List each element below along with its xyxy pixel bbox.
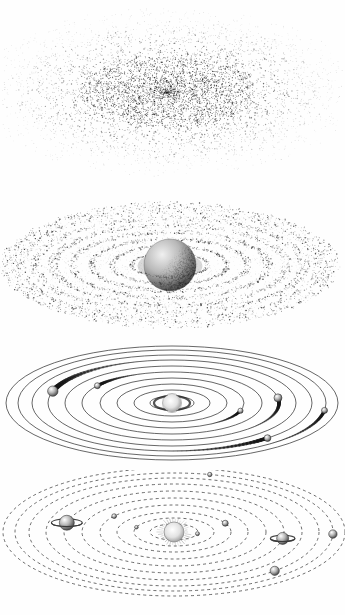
planet-body — [195, 532, 199, 536]
panel-planetesimals-stage-3: Stage 3: Solid bodies accrete and clear … — [0, 345, 345, 470]
protoplanet-lower-left — [94, 383, 100, 389]
planet-body — [112, 514, 117, 519]
planet-body — [135, 525, 139, 529]
nebula-stipple-cloud — [2, 8, 343, 176]
panel-nebula-stage-1: Stage 1: Collapsing cloud of gas and dus… — [0, 0, 345, 195]
planet-body — [270, 566, 279, 575]
proto-sun — [138, 239, 203, 292]
nebula-illustration — [0, 0, 345, 195]
planet-outer-right — [329, 530, 337, 538]
planet-body — [208, 472, 212, 476]
protoplanet-outer-right — [322, 407, 328, 413]
planet-inner-1 — [195, 532, 199, 536]
protoplanet-left-large — [48, 386, 58, 396]
protoplanet-inner-right — [238, 408, 243, 413]
planet-mid-right — [270, 532, 295, 544]
planet-inner-2 — [135, 525, 139, 529]
protoplanet-mid-right — [274, 394, 282, 402]
planet-ringed-saturn — [51, 515, 82, 530]
sun — [156, 518, 191, 547]
planet-body — [329, 530, 337, 538]
protoplanetary-disk-illustration — [0, 195, 345, 345]
planet-inner-4 — [112, 514, 117, 519]
planetesimal-accretion-illustration — [0, 345, 345, 470]
planet-inner-3 — [222, 520, 228, 526]
planet-body — [222, 520, 228, 526]
planet-body — [59, 515, 74, 530]
mature-solar-system-illustration — [0, 470, 345, 615]
planet-outer-bottom — [208, 472, 212, 476]
young-sun — [154, 394, 190, 413]
planet-upper-right — [270, 566, 279, 575]
panel-disk-stage-2: Stage 2: Rotation flattens the cloud int… — [0, 195, 345, 345]
solar-system-formation-figure: Formation of the Solar System Nebular hy… — [0, 0, 345, 615]
planet-body — [277, 532, 289, 544]
protoplanet-upper-right — [264, 435, 271, 442]
panel-system-stage-4: Stage 4: Planets on cleared, stable dash… — [0, 470, 345, 615]
